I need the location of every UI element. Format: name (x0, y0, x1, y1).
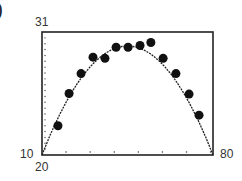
fit-curve (42, 46, 213, 155)
data-point (159, 54, 168, 63)
y-tick (44, 61, 45, 62)
data-point (146, 38, 155, 47)
x-tick (162, 151, 164, 153)
y-tick (44, 66, 45, 67)
y-tick (44, 78, 45, 79)
data-point (185, 90, 194, 99)
y-tick (44, 90, 45, 91)
data-point (195, 111, 204, 120)
y-tick (44, 125, 45, 126)
y-tick (44, 131, 45, 132)
y-tick (44, 113, 45, 114)
x-tick (138, 151, 140, 153)
y-tick (44, 37, 45, 38)
y-tick (44, 72, 45, 73)
x-tick (89, 151, 91, 153)
data-point (136, 41, 145, 50)
x-tick (113, 151, 115, 153)
data-point (124, 43, 133, 52)
scatter-plot (0, 0, 242, 181)
data-point (77, 69, 86, 78)
data-point (171, 69, 180, 78)
y-tick (44, 43, 45, 44)
data-point (53, 121, 62, 130)
y-tick (44, 84, 45, 85)
data-point (89, 53, 98, 62)
y-tick (44, 107, 45, 108)
data-point (100, 54, 109, 63)
y-tick (44, 102, 45, 103)
y-tick (44, 119, 45, 120)
y-tick (44, 96, 45, 97)
y-tick (44, 49, 45, 50)
data-point (65, 89, 74, 98)
y-tick (44, 55, 45, 56)
data-point (112, 43, 121, 52)
x-tick (65, 151, 67, 153)
y-tick (44, 137, 45, 138)
y-tick (44, 143, 45, 144)
x-tick (186, 151, 188, 153)
